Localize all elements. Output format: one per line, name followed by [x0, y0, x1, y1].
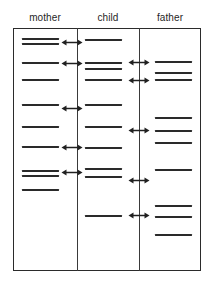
dna-band-father-6 — [155, 142, 192, 145]
dna-band-mother-9 — [22, 175, 59, 178]
dna-band-father-2 — [155, 72, 192, 75]
column-header-child: child — [77, 12, 139, 23]
dna-band-mother-10 — [22, 189, 59, 192]
dna-band-child-1 — [85, 39, 122, 42]
dna-band-child-7 — [85, 147, 122, 150]
match-arrow-mother-child-2 — [61, 58, 83, 69]
dna-band-mother-2 — [22, 43, 59, 46]
match-arrow-mother-child-3 — [61, 103, 83, 114]
match-arrow-child-father-3 — [128, 125, 150, 136]
dna-band-mother-6 — [22, 126, 59, 129]
dna-band-father-4 — [155, 117, 192, 120]
dna-band-mother-4 — [22, 79, 59, 82]
dna-fingerprint-figure: mother child father — [0, 0, 212, 282]
dna-band-child-8 — [85, 168, 122, 171]
column-header-mother: mother — [13, 12, 77, 23]
match-arrow-mother-child-4 — [61, 142, 83, 153]
dna-band-mother-7 — [22, 146, 59, 149]
dna-band-mother-1 — [22, 38, 59, 41]
dna-band-child-4 — [85, 79, 122, 82]
match-arrow-child-father-2 — [128, 75, 150, 86]
dna-band-father-8 — [155, 205, 192, 208]
match-arrow-child-father-5 — [128, 210, 150, 221]
dna-band-child-10 — [85, 215, 122, 218]
match-arrow-mother-child-5 — [61, 167, 83, 178]
dna-band-child-9 — [85, 176, 122, 179]
dna-band-father-1 — [155, 61, 192, 64]
dna-band-father-3 — [155, 79, 192, 82]
dna-band-child-6 — [85, 126, 122, 129]
column-header-father: father — [139, 12, 201, 23]
match-arrow-child-father-1 — [128, 57, 150, 68]
dna-band-father-10 — [155, 234, 192, 237]
dna-band-mother-8 — [22, 170, 59, 173]
match-arrow-child-father-4 — [128, 175, 150, 186]
dna-band-child-3 — [85, 68, 122, 71]
dna-band-father-7 — [155, 169, 192, 172]
dna-band-father-5 — [155, 130, 192, 133]
dna-band-mother-3 — [22, 62, 59, 65]
dna-band-father-9 — [155, 216, 192, 219]
match-arrow-mother-child-1 — [61, 37, 83, 48]
dna-band-child-5 — [85, 104, 122, 107]
dna-band-child-2 — [85, 62, 122, 65]
dna-band-mother-5 — [22, 104, 59, 107]
